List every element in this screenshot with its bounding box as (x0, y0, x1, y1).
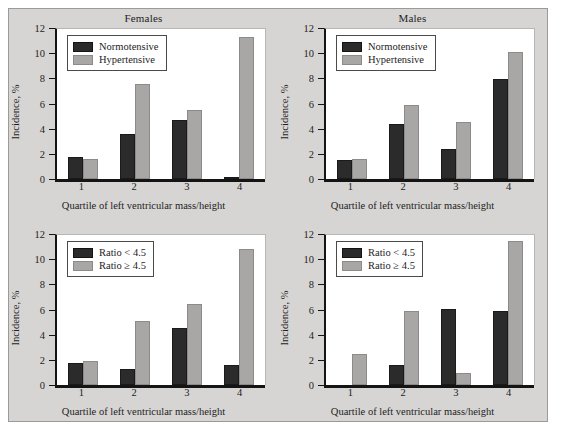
bar-females-ratio-q2-s1 (120, 369, 135, 385)
y-axis-title: Incidence, % (279, 291, 290, 346)
bar-females-ratio-q1-s2 (83, 361, 98, 385)
y-axis-ticks: 024681012 (47, 234, 55, 385)
legend-item: Ratio < 4.5 (73, 246, 146, 259)
legend-swatch-icon (73, 261, 93, 271)
legend-swatch-icon (73, 248, 93, 258)
bar-females-normotensive-hypertensive-q2-s1 (120, 134, 135, 179)
bar-females-normotensive-hypertensive-q4-s2 (239, 37, 254, 180)
y-tick-label: 10 (35, 254, 46, 265)
x-tick-label: 2 (401, 181, 406, 192)
y-tick-label: 6 (309, 98, 314, 109)
y-tick-label: 8 (40, 279, 45, 290)
bar-females-normotensive-hypertensive-q3-s1 (172, 120, 187, 179)
y-tick-label: 10 (35, 48, 46, 59)
y-tick-label: 8 (40, 73, 45, 84)
y-tick-label: 8 (309, 279, 314, 290)
x-axis-ticklabels: 1234 (55, 387, 266, 401)
bar-males-normotensive-hypertensive-q2-s1 (389, 124, 404, 179)
x-tick-label: 3 (453, 181, 458, 192)
plot-area: NormotensiveHypertensive (55, 28, 266, 179)
legend-item: Ratio < 4.5 (342, 246, 415, 259)
chart-title: Males (278, 12, 547, 24)
legend-label: Hypertensive (368, 54, 424, 65)
bar-females-normotensive-hypertensive-q2-s2 (135, 84, 150, 179)
plot-area: Ratio < 4.5Ratio ≥ 4.5 (55, 234, 266, 385)
chart-legend: Ratio < 4.5Ratio ≥ 4.5 (67, 241, 154, 277)
bar-females-ratio-q4-s2 (239, 249, 254, 385)
y-axis-title: Incidence, % (279, 85, 290, 140)
x-tick-label: 4 (237, 181, 242, 192)
plot-wrap: 024681012NormotensiveHypertensive (324, 28, 535, 179)
bar-females-ratio-q4-s1 (224, 365, 239, 385)
plot-wrap: 024681012NormotensiveHypertensive (55, 28, 266, 179)
x-tick-label: 4 (506, 181, 511, 192)
legend-label: Normotensive (99, 41, 159, 52)
y-tick-label: 8 (309, 73, 314, 84)
chart-panel-males-normotensive-hypertensive: MalesIncidence, %024681012NormotensiveHy… (278, 9, 547, 215)
x-axis-title: Quartile of left ventricular mass/height (9, 200, 278, 211)
legend-label: Ratio < 4.5 (368, 247, 415, 258)
bar-males-normotensive-hypertensive-q4-s1 (493, 79, 508, 179)
legend-label: Normotensive (368, 41, 428, 52)
y-tick-label: 4 (309, 123, 314, 134)
bar-females-ratio-q3-s1 (172, 328, 187, 386)
bar-females-ratio-q1-s1 (68, 363, 83, 386)
x-axis-title: Quartile of left ventricular mass/height (278, 406, 547, 417)
y-tick-label: 6 (309, 304, 314, 315)
y-axis-ticks: 024681012 (316, 234, 324, 385)
bar-females-normotensive-hypertensive-q3-s2 (187, 110, 202, 179)
y-tick-label: 6 (40, 98, 45, 109)
chart-legend: NormotensiveHypertensive (336, 35, 436, 71)
legend-swatch-icon (73, 55, 93, 65)
y-tick-label: 4 (309, 329, 314, 340)
y-tick-label: 0 (40, 174, 45, 185)
y-tick-label: 0 (309, 380, 314, 391)
chart-title: Females (9, 12, 278, 24)
legend-swatch-icon (342, 248, 362, 258)
bar-males-ratio-q4-s1 (493, 311, 508, 385)
y-axis-ticks: 024681012 (316, 28, 324, 179)
chart-panel-females-ratio: Incidence, %024681012Ratio < 4.5Ratio ≥ … (9, 215, 278, 421)
bar-males-normotensive-hypertensive-q2-s2 (404, 105, 419, 179)
x-tick-label: 4 (237, 387, 242, 398)
x-tick-label: 1 (79, 387, 84, 398)
bar-males-normotensive-hypertensive-q3-s2 (456, 122, 471, 180)
legend-item: Hypertensive (342, 53, 428, 66)
y-tick-label: 12 (35, 229, 46, 240)
y-tick-label: 2 (40, 148, 45, 159)
x-tick-label: 1 (79, 181, 84, 192)
y-tick-label: 12 (304, 229, 315, 240)
legend-label: Ratio < 4.5 (99, 247, 146, 258)
bar-males-normotensive-hypertensive-q1-s1 (337, 160, 352, 179)
bar-males-ratio-q4-s2 (508, 241, 523, 385)
x-tick-label: 3 (184, 181, 189, 192)
x-tick-label: 4 (506, 387, 511, 398)
y-tick-label: 10 (304, 48, 315, 59)
y-tick-label: 2 (309, 148, 314, 159)
x-tick-label: 1 (348, 181, 353, 192)
y-axis-title: Incidence, % (10, 291, 21, 346)
y-tick-label: 0 (309, 174, 314, 185)
legend-swatch-icon (342, 261, 362, 271)
chart-grid: FemalesIncidence, %024681012Normotensive… (9, 9, 547, 421)
legend-label: Ratio ≥ 4.5 (368, 260, 415, 271)
legend-label: Hypertensive (99, 54, 155, 65)
legend-item: Normotensive (342, 40, 428, 53)
x-tick-label: 2 (132, 387, 137, 398)
legend-swatch-icon (342, 55, 362, 65)
y-axis-title: Incidence, % (10, 85, 21, 140)
x-axis-ticklabels: 1234 (55, 181, 266, 195)
x-axis-ticklabels: 1234 (324, 387, 535, 401)
bar-males-ratio-q2-s2 (404, 311, 419, 385)
plot-wrap: 024681012Ratio < 4.5Ratio ≥ 4.5 (55, 234, 266, 385)
bar-females-normotensive-hypertensive-q1-s2 (83, 159, 98, 179)
plot-area: Ratio < 4.5Ratio ≥ 4.5 (324, 234, 535, 385)
x-tick-label: 2 (401, 387, 406, 398)
y-tick-label: 12 (304, 23, 315, 34)
plot-wrap: 024681012Ratio < 4.5Ratio ≥ 4.5 (324, 234, 535, 385)
x-tick-label: 3 (184, 387, 189, 398)
chart-panel-females-normotensive-hypertensive: FemalesIncidence, %024681012Normotensive… (9, 9, 278, 215)
plot-area: NormotensiveHypertensive (324, 28, 535, 179)
y-tick-label: 12 (35, 23, 46, 34)
legend-swatch-icon (73, 42, 93, 52)
